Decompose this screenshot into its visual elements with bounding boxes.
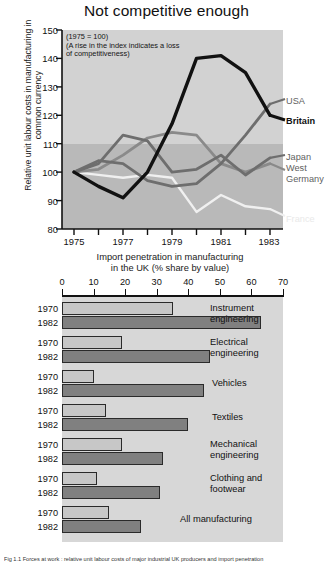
bar-year-label: 1982 — [32, 386, 58, 396]
figure-caption: Fig 1.1 Forces at work : relative unit l… — [4, 556, 329, 568]
bar-category-label: Textiles — [212, 412, 243, 423]
bar-category-label: Instrumentengineering — [210, 303, 259, 324]
bar-category-label: Vehicles — [212, 378, 247, 389]
bar-1982-electrical — [62, 350, 210, 363]
bar-1982-textiles — [62, 418, 188, 431]
bar-1982-vehicles — [62, 384, 204, 397]
bar-year-label: 1982 — [32, 454, 58, 464]
bar-1970-vehicles — [62, 370, 94, 383]
bar-1970-clothing-and — [62, 472, 97, 485]
bar-year-label: 1982 — [32, 420, 58, 430]
bar-category-label: Mechanicalengineering — [210, 439, 259, 460]
bar-chart-rows: 19701982Instrumentengineering19701982Ele… — [0, 0, 333, 568]
bar-year-label: 1970 — [32, 406, 58, 416]
bar-year-label: 1982 — [32, 522, 58, 532]
bar-1970-textiles — [62, 404, 106, 417]
bar-year-label: 1970 — [32, 440, 58, 450]
bar-1970-electrical — [62, 336, 122, 349]
bar-year-label: 1970 — [32, 372, 58, 382]
bar-year-label: 1970 — [32, 304, 58, 314]
bar-year-label: 1982 — [32, 488, 58, 498]
bar-year-label: 1970 — [32, 508, 58, 518]
bar-1982-mechanical — [62, 452, 163, 465]
bar-1982-all-manufacturing — [62, 520, 141, 533]
bar-category-label: Clothing andfootwear — [210, 473, 262, 494]
bar-1970-all-manufacturing — [62, 506, 109, 519]
bar-year-label: 1982 — [32, 352, 58, 362]
bar-1982-clothing-and — [62, 486, 160, 499]
bar-category-label: All manufacturing — [180, 514, 252, 525]
bar-1970-mechanical — [62, 438, 122, 451]
bar-year-label: 1970 — [32, 474, 58, 484]
bar-1970-instrument — [62, 302, 173, 315]
bar-year-label: 1970 — [32, 338, 58, 348]
figure-container: Not competitive enough Relative unit lab… — [0, 0, 333, 568]
bar-year-label: 1982 — [32, 318, 58, 328]
bar-category-label: Electricalengineering — [210, 337, 259, 358]
